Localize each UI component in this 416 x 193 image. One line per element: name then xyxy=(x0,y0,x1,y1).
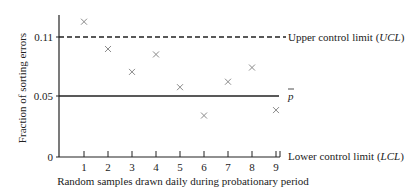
y-tick-label-011: 0.11 xyxy=(34,31,53,43)
pbar-symbol: p xyxy=(287,90,294,102)
lcl-label-abbr: LCL xyxy=(380,150,401,162)
x-tick-label: 7 xyxy=(225,161,231,173)
ucl-label-abbr: UCL xyxy=(379,31,400,43)
lcl-label-prefix: Lower control limit ( xyxy=(288,150,381,163)
data-point-x-marker xyxy=(129,69,135,75)
x-tick-label: 5 xyxy=(177,161,183,173)
y-tick-label-005: 0.05 xyxy=(34,90,54,102)
ucl-label: Upper control limit (UCL) xyxy=(288,31,405,44)
x-axis-title: Random samples drawn daily during probat… xyxy=(57,175,309,187)
lcl-label-suffix: ) xyxy=(400,150,404,163)
control-chart: 123456789 0.11 0.05 0 Fraction of sortin… xyxy=(0,0,416,193)
x-tick-label: 1 xyxy=(81,161,87,173)
x-tick-label: 6 xyxy=(201,161,207,173)
x-tick-label: 2 xyxy=(105,161,111,173)
data-point-x-marker xyxy=(81,19,87,25)
data-point-x-marker xyxy=(153,51,159,57)
x-ticks: 123456789 xyxy=(81,151,279,173)
data-markers xyxy=(81,19,279,119)
y-axis-title: Fraction of sorting errors xyxy=(16,33,28,143)
data-point-x-marker xyxy=(201,113,207,119)
lcl-label: Lower control limit (LCL) xyxy=(288,150,404,163)
ucl-label-suffix: ) xyxy=(401,31,405,44)
y-tick-label-0: 0 xyxy=(48,151,54,163)
data-point-x-marker xyxy=(249,65,255,71)
x-tick-label: 9 xyxy=(273,161,279,173)
data-point-x-marker xyxy=(273,107,279,113)
x-tick-label: 8 xyxy=(249,161,255,173)
data-point-x-marker xyxy=(177,84,183,90)
x-tick-label: 4 xyxy=(153,161,159,173)
x-tick-label: 3 xyxy=(129,161,135,173)
ucl-label-prefix: Upper control limit ( xyxy=(288,31,380,44)
data-point-x-marker xyxy=(225,79,231,85)
data-point-x-marker xyxy=(105,46,111,52)
pbar-label: p xyxy=(287,89,294,102)
